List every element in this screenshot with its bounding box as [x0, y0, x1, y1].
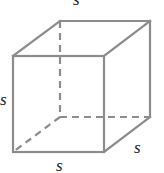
- edge-top-left-depth: [13, 21, 60, 56]
- edge-top-right-depth: [104, 21, 150, 56]
- visible-edges: [13, 21, 150, 152]
- hidden-edge-bottom-left-depth: [13, 117, 60, 152]
- label-depth: s: [134, 139, 141, 156]
- label-top: s: [73, 0, 80, 8]
- front-face: [13, 56, 104, 152]
- label-left: s: [0, 91, 7, 108]
- edge-bottom-right-depth: [104, 117, 150, 152]
- label-bottom: s: [56, 157, 63, 173]
